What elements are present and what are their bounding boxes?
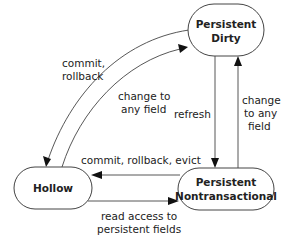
label-change-to-any-field-vertical: change to any field: [242, 94, 281, 132]
arrowhead-icon: [178, 44, 188, 53]
svg-text:any field: any field: [121, 103, 166, 115]
node-persistent-dirty: Persistent Dirty: [188, 4, 264, 56]
label-read-access: read access to persistent fields: [97, 210, 181, 235]
node-label: Dirty: [211, 32, 241, 44]
arrowhead-icon: [211, 158, 219, 168]
arrowhead-icon: [91, 171, 102, 179]
node-label: Nontransactional: [175, 190, 277, 202]
node-label: Persistent: [196, 18, 257, 30]
svg-text:change: change: [242, 94, 281, 106]
label-change-to-any-field-curve: change to any field: [118, 90, 171, 115]
svg-text:field: field: [248, 120, 271, 132]
node-persistent-nontransactional: Persistent Nontransactional: [175, 168, 277, 210]
label-commit-rollback-evict: commit, rollback, evict: [81, 154, 201, 166]
svg-text:rollback: rollback: [62, 70, 104, 82]
label-refresh: refresh: [174, 108, 211, 120]
svg-text:read access to: read access to: [101, 210, 177, 222]
node-label: Hollow: [33, 182, 73, 194]
arrowhead-icon: [234, 56, 242, 66]
arrowhead-icon: [43, 156, 51, 167]
svg-text:change to: change to: [118, 90, 171, 102]
node-hollow: Hollow: [14, 167, 92, 209]
svg-text:commit,: commit,: [62, 57, 105, 69]
node-label: Persistent: [196, 176, 257, 188]
state-diagram: Persistent Dirty Hollow Persistent Nontr…: [0, 0, 296, 245]
label-commit-rollback: commit, rollback: [62, 57, 105, 82]
svg-text:refresh: refresh: [174, 108, 211, 120]
svg-text:commit, rollback, evict: commit, rollback, evict: [81, 154, 201, 166]
svg-text:to any: to any: [244, 107, 277, 119]
svg-text:persistent fields: persistent fields: [97, 223, 181, 235]
